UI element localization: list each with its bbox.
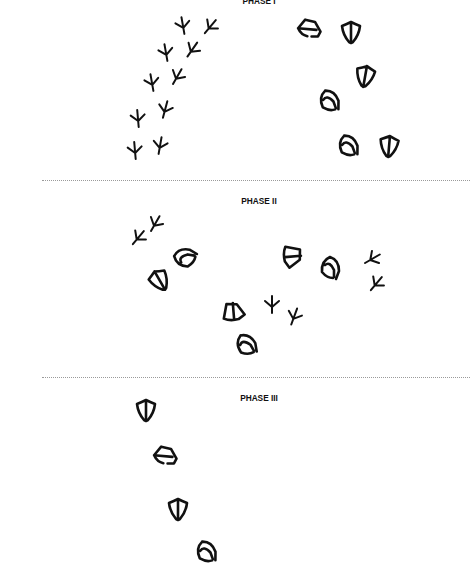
- duck-footprint-icon: [233, 331, 259, 359]
- bird-footprint-icon: [362, 248, 384, 269]
- bird-footprint-icon: [285, 306, 304, 327]
- duck-footprint-icon: [169, 499, 187, 520]
- duck-footprint-icon: [354, 65, 375, 89]
- bird-footprint-icon: [365, 273, 387, 295]
- phase-2-tracks: [127, 213, 387, 359]
- bird-footprint-icon: [145, 213, 166, 235]
- phase-3-tracks: [137, 400, 218, 565]
- duck-footprint-icon: [296, 16, 323, 43]
- bird-footprint-icon: [127, 227, 149, 249]
- duck-footprint-icon: [147, 267, 173, 294]
- phase-1-tracks: [127, 16, 399, 160]
- duck-footprint-icon: [342, 22, 360, 43]
- duck-footprint-icon: [322, 257, 339, 279]
- bird-footprint-icon: [156, 99, 174, 119]
- duck-footprint-icon: [277, 242, 304, 270]
- duck-footprint-icon: [137, 400, 155, 421]
- track-diagram: [0, 0, 470, 580]
- bird-footprint-icon: [199, 16, 221, 38]
- duck-footprint-icon: [219, 300, 247, 327]
- duck-footprint-icon: [337, 133, 361, 160]
- duck-footprint-icon: [152, 443, 179, 470]
- bird-footprint-icon: [127, 141, 142, 159]
- duck-footprint-icon: [195, 539, 219, 566]
- bird-footprint-icon: [167, 66, 188, 88]
- bird-footprint-icon: [182, 39, 203, 61]
- duck-footprint-icon: [379, 135, 399, 157]
- bird-footprint-icon: [152, 136, 169, 155]
- duck-footprint-icon: [318, 88, 342, 115]
- bird-footprint-icon: [130, 109, 145, 127]
- bird-footprint-icon: [265, 296, 279, 313]
- bird-footprint-icon: [158, 43, 175, 62]
- duck-footprint-icon: [173, 247, 198, 268]
- bird-footprint-icon: [144, 73, 161, 92]
- bird-footprint-icon: [175, 16, 192, 35]
